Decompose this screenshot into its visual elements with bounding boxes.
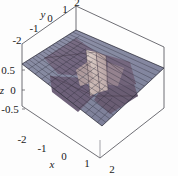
z-tick-zero: 0 — [10, 84, 16, 96]
y-tick-neg1: -1 — [29, 22, 38, 34]
x-tick-2: 2 — [109, 163, 115, 175]
plot-canvas: -2 -1 0 1 2 y -2 -1 0 1 2 x 0.5 0 -0.5 z — [0, 0, 178, 176]
y-axis-name: y — [40, 8, 46, 20]
y-tick-neg2: -2 — [12, 34, 21, 46]
y-tick-1: 1 — [62, 3, 68, 15]
x-tick-1: 1 — [84, 157, 90, 169]
y-tick-0: 0 — [47, 12, 53, 24]
z-tick-positive-half: 0.5 — [1, 64, 15, 76]
y-tick-2: 2 — [74, 0, 80, 8]
x-tick-0: 0 — [61, 150, 67, 162]
z-tick-negative-half: -0.5 — [1, 103, 19, 115]
x-tick-neg1: -1 — [37, 142, 46, 154]
z-axis-name: z — [0, 84, 5, 96]
surface-plot-figure: -2 -1 0 1 2 y -2 -1 0 1 2 x 0.5 0 -0.5 z — [0, 0, 178, 176]
x-tick-neg2: -2 — [17, 133, 26, 145]
x-axis-name: x — [49, 158, 55, 170]
